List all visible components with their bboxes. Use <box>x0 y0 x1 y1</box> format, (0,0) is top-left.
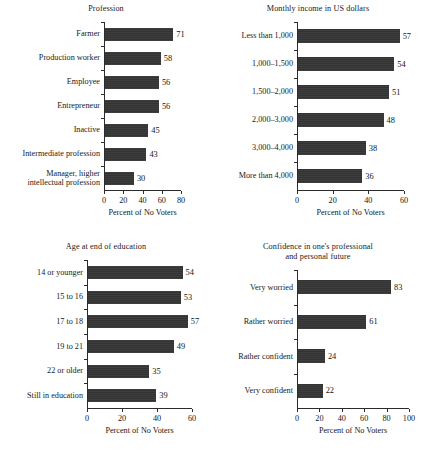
x-axis-tick-label: 60 <box>158 196 166 205</box>
x-axis-tick-label: 40 <box>153 414 161 423</box>
bar <box>88 340 174 353</box>
x-axis-tick <box>157 409 158 412</box>
chart-title-income: Monthly income in US dollars <box>212 4 424 14</box>
bar-value-label: 53 <box>184 293 192 302</box>
category-label: 1,500–2,000 <box>212 87 296 97</box>
category-label: Manager, higher intellectual profession <box>0 169 103 188</box>
chart-title-profession: Profession <box>0 4 212 14</box>
x-axis-tick-label: 40 <box>338 414 346 423</box>
x-axis-tick <box>162 191 163 194</box>
x-axis-tick <box>143 191 144 194</box>
x-axis-tick <box>297 409 298 412</box>
bar <box>88 389 156 402</box>
plot-area-confidence: 83Very worried61Rather worried24Rather c… <box>297 270 409 408</box>
y-axis-tick <box>84 359 87 360</box>
bar <box>88 315 188 328</box>
bar <box>105 172 134 185</box>
y-axis-tick <box>294 270 297 271</box>
x-axis-tick-label: 20 <box>315 414 323 423</box>
category-label: Employee <box>0 77 103 87</box>
x-axis-tick-label: 20 <box>329 196 337 205</box>
bar-value-label: 45 <box>151 126 159 135</box>
category-label: 17 to 18 <box>0 317 86 327</box>
x-axis-title: Percent of No Voters <box>297 426 409 435</box>
x-axis-tick-label: 20 <box>118 414 126 423</box>
x-axis-tick <box>404 191 405 194</box>
y-axis-tick <box>101 70 104 71</box>
category-label: More than 4,000 <box>212 171 296 181</box>
x-axis-tick <box>297 191 298 194</box>
x-axis-tick-label: 80 <box>177 196 185 205</box>
x-axis-line <box>87 408 192 409</box>
y-axis-line <box>297 22 298 190</box>
category-label: Inactive <box>0 125 103 135</box>
category-label: Entrepreneur <box>0 101 103 111</box>
plot-area-education: 5414 or younger5315 to 165717 to 184919 … <box>87 260 192 408</box>
bar <box>88 266 183 279</box>
x-axis-tick-label: 0 <box>85 414 89 423</box>
y-axis-tick <box>84 383 87 384</box>
x-axis-tick <box>319 409 320 412</box>
x-axis-tick <box>192 409 193 412</box>
x-axis-tick <box>368 191 369 194</box>
y-axis-tick <box>294 162 297 163</box>
bar <box>105 28 173 41</box>
chart-panel-profession: Profession 71Farmer58Production worker56… <box>0 4 212 230</box>
bar-value-label: 56 <box>162 102 170 111</box>
bar <box>88 365 149 378</box>
bar-value-label: 35 <box>152 367 160 376</box>
bar-value-label: 38 <box>369 144 377 153</box>
bar <box>105 148 146 161</box>
bar-value-label: 30 <box>137 174 145 183</box>
category-label: 14 or younger <box>0 268 86 278</box>
bar-value-label: 24 <box>328 352 336 361</box>
bar <box>298 141 366 155</box>
bar-value-label: 43 <box>149 150 157 159</box>
bar <box>298 169 362 183</box>
x-axis-tick <box>387 409 388 412</box>
x-axis-title: Percent of No Voters <box>104 208 181 217</box>
x-axis-tick-label: 100 <box>403 414 415 423</box>
category-label: 19 to 21 <box>0 342 86 352</box>
y-axis-tick <box>101 118 104 119</box>
x-axis-tick-label: 60 <box>188 414 196 423</box>
y-axis-tick <box>294 374 297 375</box>
x-axis-tick-label: 40 <box>364 196 372 205</box>
bar-value-label: 56 <box>162 78 170 87</box>
bar-value-label: 54 <box>397 60 405 69</box>
x-axis-tick <box>333 191 334 194</box>
x-axis-title: Percent of No Voters <box>87 426 192 435</box>
x-axis-tick <box>87 409 88 412</box>
category-label: 1,000–1,500 <box>212 59 296 69</box>
y-axis-tick <box>84 334 87 335</box>
bar-value-label: 57 <box>403 32 411 41</box>
bar <box>298 349 325 363</box>
y-axis-tick <box>101 94 104 95</box>
bar <box>298 113 384 127</box>
x-axis-tick <box>342 409 343 412</box>
bar-value-label: 22 <box>326 386 334 395</box>
x-axis-tick <box>122 409 123 412</box>
y-axis-tick <box>294 50 297 51</box>
category-label: Farmer <box>0 29 103 39</box>
x-axis-tick-label: 0 <box>295 414 299 423</box>
bar-value-label: 71 <box>176 30 184 39</box>
category-label: Very confident <box>212 386 296 396</box>
bar-value-label: 36 <box>365 172 373 181</box>
bar-value-label: 49 <box>177 342 185 351</box>
x-axis-tick <box>181 191 182 194</box>
bar-value-label: 61 <box>369 317 377 326</box>
chart-panel-confidence: Confidence in one's professional and per… <box>212 238 424 466</box>
x-axis-tick-label: 60 <box>360 414 368 423</box>
plot-area-income: 57Less than 1,000541,000–1,500511,500–2,… <box>297 22 404 190</box>
chart-title-education: Age at end of education <box>0 242 212 252</box>
plot-area-profession: 71Farmer58Production worker56Employee56E… <box>104 22 181 190</box>
bar-value-label: 51 <box>392 88 400 97</box>
bar <box>298 29 400 43</box>
chart-panel-education: Age at end of education 5414 or younger5… <box>0 238 212 466</box>
y-axis-tick <box>101 166 104 167</box>
category-label: 22 or older <box>0 366 86 376</box>
x-axis-tick-label: 40 <box>138 196 146 205</box>
y-axis-tick <box>294 106 297 107</box>
x-axis-tick <box>409 409 410 412</box>
